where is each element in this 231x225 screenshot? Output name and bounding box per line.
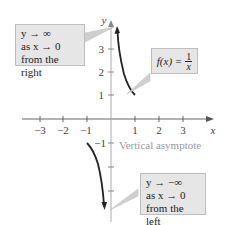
callout-function: f(x) = 1 x — [151, 48, 198, 74]
x-tick-label: −2 — [57, 124, 69, 136]
curve-arrow-up-icon — [115, 26, 121, 34]
callout-left-pointer — [110, 189, 138, 210]
callout-line: y → ∞ — [21, 27, 79, 40]
x-tick-label: 1 — [132, 124, 138, 136]
callout-line: as x → 0 — [146, 189, 200, 202]
x-tick-label: 3 — [180, 124, 186, 136]
x-tick-label: −3 — [34, 124, 46, 136]
y-tick-label: 3 — [99, 43, 105, 55]
curve-right-branch — [118, 30, 136, 95]
fraction-numerator: 1 — [185, 52, 192, 62]
x-axis-label: x — [210, 124, 216, 136]
x-axis-arrow-icon — [206, 116, 214, 122]
x-tick-label: −1 — [80, 124, 92, 136]
fraction: 1 x — [185, 52, 192, 71]
y-tick-label: 1 — [99, 89, 105, 101]
x-tick-label: 2 — [156, 124, 162, 136]
y-tick-label: −1 — [94, 137, 106, 149]
curve-arrow-down-icon — [102, 202, 108, 210]
function-prefix: f(x) = — [157, 55, 182, 67]
callout-function-pointer — [127, 73, 150, 94]
callout-line: from the left — [146, 202, 200, 225]
y-axis-label: y — [101, 14, 107, 26]
vertical-asymptote-label: Vertical asymptote — [119, 139, 201, 151]
callout-right-pointer — [83, 27, 114, 43]
callout-line: from the right — [21, 53, 79, 79]
callout-line: y → −∞ — [146, 176, 200, 189]
callout-left-limit: y → −∞ as x → 0 from the left — [140, 173, 206, 215]
callout-line: as x → 0 — [21, 40, 79, 53]
y-axis-arrow-icon — [108, 20, 114, 27]
curve-left-branch — [87, 143, 104, 205]
y-tick-label: 2 — [99, 66, 105, 78]
fraction-denominator: x — [186, 62, 190, 71]
callout-right-limit: y → ∞ as x → 0 from the right — [15, 24, 85, 66]
